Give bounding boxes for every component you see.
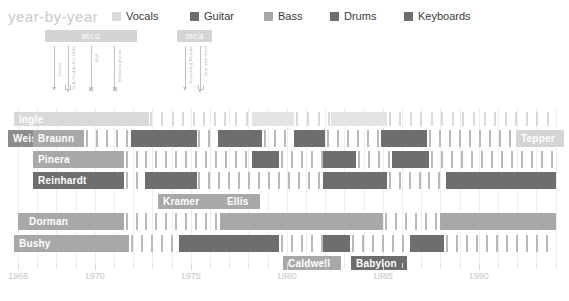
activity-tick xyxy=(521,151,523,168)
axis-year-label: 1975 xyxy=(181,271,201,281)
member-name-label: Ellis xyxy=(222,194,260,209)
member-name-label: Pinera xyxy=(33,151,115,168)
activity-tick xyxy=(288,172,290,189)
dot-icon xyxy=(89,87,93,91)
activity-tick xyxy=(131,235,133,252)
activity-tick xyxy=(238,172,240,189)
activity-tick xyxy=(476,235,478,252)
activity-tick xyxy=(435,213,437,230)
activity-tick xyxy=(155,213,157,230)
activity-tick xyxy=(428,172,430,189)
activity-tick xyxy=(420,112,422,126)
activity-tick xyxy=(161,112,163,126)
axis-tick-major xyxy=(287,263,288,270)
activity-tick xyxy=(362,235,364,252)
activity-tick xyxy=(268,172,270,189)
activity-tick xyxy=(215,151,217,168)
activity-tick xyxy=(546,235,548,252)
member-name-label: Reinhardt xyxy=(33,172,105,189)
activity-segment xyxy=(410,235,445,252)
activity-segment xyxy=(145,172,197,189)
activity-tick xyxy=(388,151,390,168)
timeline-row-ellis: Ellis xyxy=(0,194,569,209)
activity-tick xyxy=(172,112,174,126)
axis-tick-minor xyxy=(152,263,153,268)
activity-tick xyxy=(208,172,210,189)
axis-year-label: 1985 xyxy=(373,271,393,281)
activity-tick xyxy=(378,151,380,168)
activity-tick xyxy=(516,235,518,252)
timeline-row-ingle: Ingle xyxy=(0,112,569,126)
activity-tick xyxy=(296,112,298,126)
activity-tick xyxy=(301,151,303,168)
activity-tick xyxy=(150,112,152,126)
activity-tick xyxy=(461,151,463,168)
activity-segment xyxy=(392,151,428,168)
activity-tick xyxy=(205,213,207,230)
dot-icon xyxy=(113,87,117,91)
activity-tick xyxy=(193,112,195,126)
activity-tick xyxy=(481,151,483,168)
activity-tick xyxy=(136,151,138,168)
activity-tick xyxy=(195,151,197,168)
activity-tick xyxy=(456,235,458,252)
axis-year-label: 1980 xyxy=(277,271,297,281)
timeline-plot-area: IngleWeisBraunnTepperPineraReinhardtKram… xyxy=(0,108,569,263)
album-stem xyxy=(114,46,115,90)
legend-label: Drums xyxy=(344,10,376,22)
activity-tick xyxy=(311,235,313,252)
activity-tick xyxy=(311,151,313,168)
activity-segment xyxy=(323,172,386,189)
activity-segment xyxy=(440,213,555,230)
axis-tick-minor xyxy=(344,263,345,268)
member-name-label: Bushy xyxy=(14,235,76,252)
year-by-year-timeline-chart: year-by-year VocalsGuitarBassDrumsKeyboa… xyxy=(0,0,569,301)
activity-tick xyxy=(171,235,173,252)
activity-tick xyxy=(175,213,177,230)
activity-tick xyxy=(462,112,464,126)
activity-tick xyxy=(473,112,475,126)
activity-tick xyxy=(205,151,207,168)
axis-tick-minor xyxy=(325,263,326,268)
axis-tick-major xyxy=(191,263,192,270)
activity-segment xyxy=(446,172,555,189)
arrow-down-icon xyxy=(66,89,70,93)
activity-tick xyxy=(486,235,488,252)
activity-segment xyxy=(220,213,383,230)
legend-item-bass: Bass xyxy=(264,9,302,23)
activity-tick xyxy=(425,213,427,230)
album-title: Ball xyxy=(94,54,99,62)
legend-swatch-icon xyxy=(264,12,273,21)
page-title: year-by-year xyxy=(8,8,98,25)
activity-tick xyxy=(258,172,260,189)
axis-tick-minor xyxy=(210,263,211,268)
timeline-row-tepper: Tepper xyxy=(0,130,569,147)
activity-tick xyxy=(441,112,443,126)
activity-tick xyxy=(235,112,237,126)
album-stem xyxy=(185,46,186,88)
activity-tick xyxy=(526,235,528,252)
activity-tick xyxy=(278,172,280,189)
axis-tick-minor xyxy=(517,263,518,268)
arrow-down-icon xyxy=(52,87,56,91)
activity-tick xyxy=(395,213,397,230)
activity-tick xyxy=(182,112,184,126)
activity-tick xyxy=(291,235,293,252)
activity-tick xyxy=(218,172,220,189)
legend-item-vocals: Vocals xyxy=(112,9,158,23)
activity-tick xyxy=(511,151,513,168)
activity-tick xyxy=(235,151,237,168)
axis-tick-minor xyxy=(229,263,230,268)
activity-tick xyxy=(298,172,300,189)
timeline-row-bushy: Bushy xyxy=(0,235,569,252)
activity-tick xyxy=(405,213,407,230)
album-stem xyxy=(54,46,55,88)
legend-item-drums: Drums xyxy=(330,9,376,23)
activity-tick xyxy=(301,235,303,252)
activity-tick xyxy=(402,235,404,252)
timeline-row-pinera: Pinera xyxy=(0,151,569,168)
activity-tick xyxy=(526,112,528,126)
axis-tick-minor xyxy=(498,263,499,268)
legend-swatch-icon xyxy=(330,12,339,21)
activity-tick xyxy=(215,213,217,230)
